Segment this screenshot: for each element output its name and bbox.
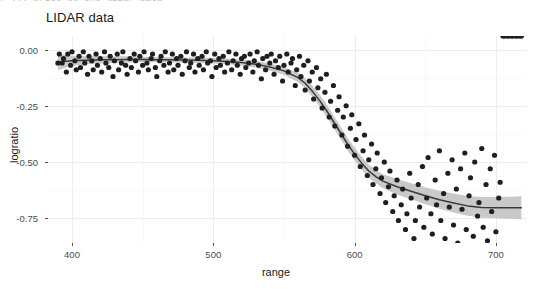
scatter-point — [252, 58, 257, 63]
scatter-point — [150, 51, 155, 56]
plot-panel — [48, 36, 527, 243]
scatter-point — [400, 186, 405, 191]
scatter-point — [466, 193, 471, 198]
scatter-point — [154, 74, 159, 79]
scatter-point — [434, 202, 439, 207]
x-tick-mark — [213, 243, 214, 246]
scatter-point — [336, 94, 341, 99]
scatter-point — [86, 54, 91, 59]
scatter-point — [356, 121, 361, 126]
scatter-point — [182, 58, 187, 63]
scatter-point — [277, 54, 282, 59]
scatter-point — [433, 177, 438, 182]
scatter-point — [197, 63, 202, 68]
scatter-point — [387, 168, 392, 173]
scatter-point — [322, 90, 327, 95]
y-tick-label: -0.75 — [16, 213, 38, 224]
scatter-point — [64, 69, 69, 74]
scatter-point — [61, 56, 66, 61]
scatter-point — [310, 69, 315, 74]
scatter-point — [375, 150, 380, 155]
scatter-point — [409, 195, 414, 200]
x-tick-mark — [72, 243, 73, 246]
scatter-point — [451, 222, 456, 227]
scatter-point — [492, 153, 497, 158]
scatter-point — [394, 177, 399, 182]
confidence-ribbon — [58, 54, 521, 219]
scatter-point — [247, 51, 252, 56]
scatter-point — [416, 182, 421, 187]
scatter-point — [489, 209, 494, 214]
scatter-point — [161, 63, 166, 68]
scatter-point — [413, 218, 418, 223]
y-tick-mark — [45, 106, 48, 107]
scatter-point — [428, 211, 433, 216]
scatter-point — [91, 67, 96, 72]
scatter-point — [208, 58, 213, 63]
scatter-point — [133, 58, 138, 63]
scatter-point — [95, 63, 100, 68]
scatter-point — [127, 56, 132, 61]
scatter-point — [250, 69, 255, 74]
x-tick-label: 700 — [488, 249, 504, 260]
scatter-point — [153, 65, 158, 70]
scatter-point — [331, 83, 336, 88]
scatter-point — [379, 175, 384, 180]
scatter-point — [407, 171, 412, 176]
scatter-point — [76, 54, 81, 59]
scatter-point — [191, 51, 196, 56]
scatter-point — [383, 200, 388, 205]
scatter-point — [171, 67, 176, 72]
scatter-point — [137, 54, 142, 59]
scatter-point — [339, 132, 344, 137]
scatter-point — [341, 114, 346, 119]
scatter-point — [212, 51, 217, 56]
scatter-point — [365, 173, 370, 178]
x-tick-label: 500 — [205, 249, 221, 260]
scatter-point — [348, 126, 353, 131]
scatter-point — [149, 56, 154, 61]
scatter-point — [108, 54, 113, 59]
scatter-point — [430, 231, 435, 236]
scatter-point — [225, 60, 230, 65]
scatter-point — [314, 65, 319, 70]
scatter-point — [235, 63, 240, 68]
scatter-point — [271, 72, 276, 77]
scatter-point — [472, 159, 477, 164]
scatter-point — [311, 96, 316, 101]
scatter-point — [243, 65, 248, 70]
scatter-point — [332, 123, 337, 128]
scatter-point — [81, 49, 86, 54]
y-tick-mark — [45, 218, 48, 219]
scatter-point — [327, 114, 332, 119]
scatter-point — [301, 63, 306, 68]
scatter-point — [377, 191, 382, 196]
scatter-point — [425, 155, 430, 160]
scatter-point — [382, 159, 387, 164]
scatter-point — [328, 99, 333, 104]
scatter-point — [288, 60, 293, 65]
scatter-point — [450, 157, 455, 162]
scatter-point — [233, 51, 238, 56]
x-tick-mark — [496, 243, 497, 246]
scatter-point — [99, 69, 104, 74]
y-axis-title: logratio — [8, 105, 20, 185]
scatter-point — [209, 74, 214, 79]
scatter-point — [141, 49, 146, 54]
scatter-point — [170, 51, 175, 56]
scatter-point — [483, 182, 488, 187]
scatter-point — [112, 58, 117, 63]
scatter-point — [358, 164, 363, 169]
scatter-point — [280, 78, 285, 83]
scatter-point — [116, 67, 121, 72]
scatter-point — [493, 229, 498, 234]
scatter-point — [132, 51, 137, 56]
scatter-point — [445, 171, 450, 176]
loess-smooth-line — [58, 59, 521, 207]
scatter-point — [199, 54, 204, 59]
scatter-point — [290, 56, 295, 61]
scatter-point — [222, 69, 227, 74]
scatter-point — [345, 144, 350, 149]
scatter-point — [129, 65, 134, 70]
clipped-code-line: # ... write to the lidar data — [0, 0, 162, 4]
